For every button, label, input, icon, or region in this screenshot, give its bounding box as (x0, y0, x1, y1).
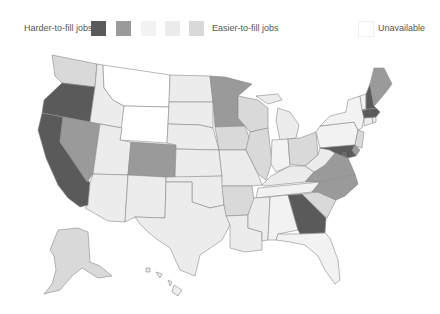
state-nd[interactable] (169, 75, 213, 102)
state-az[interactable] (85, 174, 128, 222)
state-nm[interactable] (125, 175, 166, 222)
state-in[interactable] (271, 139, 290, 172)
state-ak[interactable] (44, 228, 112, 294)
state-wa[interactable] (52, 55, 97, 87)
state-ia[interactable] (215, 126, 250, 150)
state-co[interactable] (128, 142, 176, 178)
state-ri[interactable] (372, 117, 376, 123)
state-fl[interactable] (276, 233, 340, 284)
state-ks[interactable] (175, 149, 222, 178)
us-map (0, 0, 440, 314)
state-wy[interactable] (120, 106, 169, 143)
state-hi[interactable] (146, 268, 182, 296)
state-dc[interactable] (343, 153, 346, 156)
state-me[interactable] (370, 68, 392, 106)
state-ct[interactable] (364, 117, 373, 126)
